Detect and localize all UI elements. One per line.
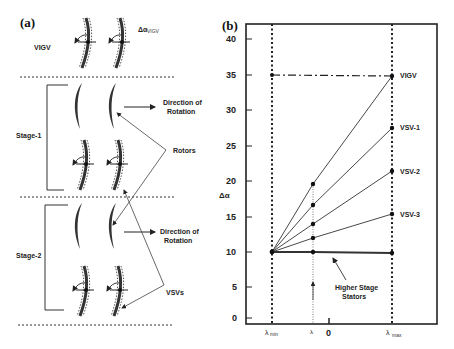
series-label-vsv2: VSV-2 <box>400 168 420 175</box>
direction2-line1: Direction of <box>160 228 200 235</box>
y-tick-25: 25 <box>226 141 236 151</box>
y-tick-20: 20 <box>226 176 236 186</box>
y-tick-30: 30 <box>226 105 236 115</box>
panel-a-label: (a) <box>20 15 35 30</box>
stators-callout-line <box>333 258 346 280</box>
x-tick-lambda-max: λ <box>386 329 390 336</box>
series-label-vigv: VIGV <box>400 72 417 79</box>
y-tick-5: 5 <box>232 282 237 292</box>
direction1-line1: Direction of <box>163 99 203 106</box>
panel-b-label: (b) <box>222 18 238 33</box>
vsvs-callout-line <box>122 285 164 308</box>
data-point <box>270 73 274 77</box>
y-tick-40: 40 <box>226 34 236 44</box>
series-lines <box>272 76 392 252</box>
stators-label-line2: Stators <box>342 293 366 300</box>
series-higher-stage-stators <box>272 252 392 253</box>
series-vigv <box>272 76 392 252</box>
stage2-bracket <box>45 205 68 310</box>
stators-label-line1: Higher Stage <box>335 284 378 292</box>
vsv-blade-icon <box>107 140 128 190</box>
series-label-vsv3: VSV-3 <box>400 211 420 218</box>
y-tick-0: 0 <box>232 313 237 323</box>
rotor-blade-icon <box>75 203 82 249</box>
rotor-blade-icon <box>109 83 116 129</box>
x-tick-zero: 0 <box>326 328 331 338</box>
rotor-blade-icon <box>75 83 82 129</box>
vigv-label: VIGV <box>34 44 51 51</box>
vigv-blade-icon <box>109 18 130 68</box>
rotor-blade-icon <box>109 203 116 249</box>
vsvs-callout-line <box>124 190 164 285</box>
vsv-blade-icon <box>73 266 94 316</box>
direction2-line2: Rotation <box>164 237 192 244</box>
panel-b: (b) 0 5 10 15 20 25 30 35 40 Δα <box>219 18 437 338</box>
y-tick-10: 10 <box>226 247 236 257</box>
panel-a: (a) VIGV Δα VIGV Stage-1 Direction of Ro… <box>16 15 203 325</box>
vsvs-label: VSVs <box>166 289 184 296</box>
y-tick-35: 35 <box>226 70 236 80</box>
delta-alpha-vigv-subscript: VIGV <box>147 28 160 34</box>
x-tick-lambda: λ <box>310 329 313 335</box>
stage2-label: Stage-2 <box>16 252 41 260</box>
data-markers <box>270 74 395 255</box>
series-vsv2 <box>272 171 392 252</box>
y-axis-label: Δα <box>219 191 230 200</box>
x-tick-lambda-min-sub: min <box>270 331 278 337</box>
vigv-blade-icon <box>75 18 96 68</box>
x-tick-lambda-min: λ <box>265 329 269 336</box>
series-vsv3 <box>272 214 392 252</box>
stage1-label: Stage-1 <box>16 132 41 140</box>
y-axis: 0 5 10 15 20 25 30 35 40 Δα <box>219 34 252 323</box>
rotors-label: Rotors <box>173 147 196 154</box>
figure-canvas: (a) VIGV Δα VIGV Stage-1 Direction of Ro… <box>0 0 454 349</box>
series-label-vsv1: VSV-1 <box>400 124 420 131</box>
y-tick-15: 15 <box>226 212 236 222</box>
stage1-bracket <box>47 85 68 190</box>
vsv-blade-icon <box>107 266 128 316</box>
vsv-blade-icon <box>73 140 94 190</box>
rotors-callout-line <box>117 113 166 150</box>
x-tick-lambda-max-sub: max <box>392 332 402 338</box>
direction1-line2: Rotation <box>167 108 195 115</box>
series-vsv1 <box>272 128 392 252</box>
vigv-max-line <box>272 75 392 76</box>
